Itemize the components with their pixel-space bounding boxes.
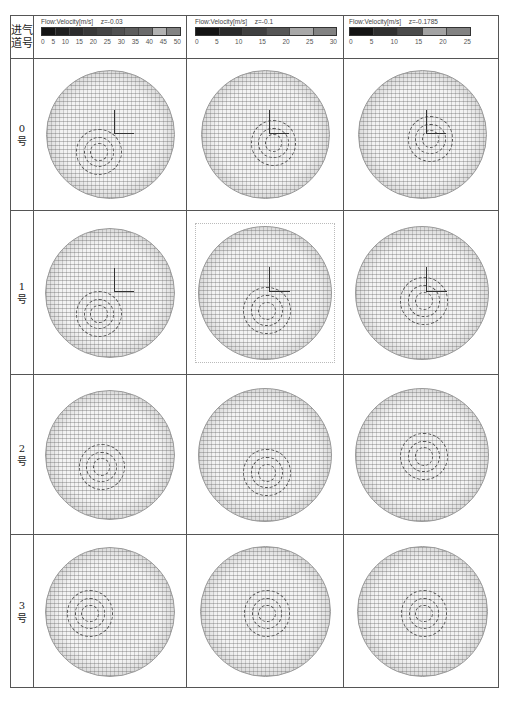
velocity-field-disk	[198, 388, 332, 522]
colorbar-tick: 15	[76, 38, 83, 45]
vortex-ring	[243, 449, 291, 497]
colorbar-tick: 50	[174, 38, 181, 45]
colorbar-segment	[398, 28, 422, 35]
velocity-field-disk	[355, 226, 489, 360]
velocity-field-disk	[45, 228, 175, 358]
colorbar-segment	[56, 28, 70, 35]
colorbar-tick: 0	[195, 38, 199, 45]
colorbar-tick: 0	[41, 38, 45, 45]
colorbar-strip	[349, 27, 471, 36]
row-number: 1	[19, 280, 25, 293]
colorbar-tick: 20	[282, 38, 289, 45]
colorbar-ticks: 05101520253035404550	[41, 38, 181, 45]
colorbar-tick: 15	[415, 38, 422, 45]
plane-label: z=-0.1	[255, 18, 273, 25]
vector-plot-row2-col1	[187, 375, 343, 534]
colorbar-ticks: 051015202530	[195, 38, 337, 45]
vector-plot-row1-col2	[344, 211, 500, 374]
colorbar-tick: 25	[306, 38, 313, 45]
vortex-ring	[400, 277, 448, 325]
vector-plot-row1-col1	[187, 211, 343, 374]
plane-label: z=-0.1785	[409, 18, 438, 25]
corner-header: 进气 道号	[11, 16, 33, 58]
colorbar-tick: 40	[146, 38, 153, 45]
colorbar-segment	[350, 28, 374, 35]
colorbar-tick: 25	[464, 38, 471, 45]
colorbar-tick: 30	[118, 38, 125, 45]
vector-plot-row3-col2	[344, 535, 500, 688]
y-axis-icon	[114, 110, 115, 133]
colorbar-z01: Flow:Velocity[m/s] z=-0.1 051015202530	[195, 18, 337, 56]
colorbar-segment	[196, 28, 220, 35]
x-axis-icon	[269, 291, 290, 292]
figure-table: 进气 道号 Flow:Velocity[m/s] z=-0.03 0510152…	[10, 15, 499, 688]
x-axis-icon	[426, 133, 447, 134]
colorbar-title: Flow:Velocity[m/s]	[349, 18, 401, 25]
velocity-field-disk	[357, 546, 488, 677]
vortex-ring	[76, 129, 122, 175]
colorbar-segment	[374, 28, 398, 35]
colorbar-z003: Flow:Velocity[m/s] z=-0.03 0510152025303…	[41, 18, 181, 56]
row-number: 2	[19, 442, 25, 455]
vortex-ring	[243, 287, 291, 335]
row-number: 0	[19, 122, 25, 135]
colorbar-tick: 30	[330, 38, 337, 45]
row-label-0: 0 号	[11, 59, 33, 210]
colorbar-segment	[267, 28, 291, 35]
row-label-2: 2 号	[11, 375, 33, 534]
vortex-ring	[408, 116, 454, 162]
colorbar-title: Flow:Velocity[m/s]	[41, 18, 93, 25]
colorbar-tick: 20	[439, 38, 446, 45]
corner-label-line1: 进气	[11, 24, 33, 37]
colorbar-tick: 0	[349, 38, 353, 45]
colorbar-tick: 45	[160, 38, 167, 45]
corner-label-line2: 道号	[11, 37, 33, 50]
colorbar-tick: 5	[370, 38, 374, 45]
colorbar-tick: 5	[215, 38, 219, 45]
colorbar-segment	[314, 28, 337, 35]
colorbar-segment	[243, 28, 267, 35]
vector-plot-row0-col0	[34, 59, 186, 210]
colorbar-tick: 15	[259, 38, 266, 45]
x-axis-icon	[426, 291, 447, 292]
row-label-1: 1 号	[11, 211, 33, 374]
row-label-3: 3 号	[11, 535, 33, 688]
colorbar-segment	[290, 28, 314, 35]
vortex-ring	[400, 433, 448, 481]
row-suffix: 号	[17, 293, 27, 306]
velocity-field-disk	[358, 70, 487, 199]
row-suffix: 号	[17, 455, 27, 468]
y-axis-icon	[426, 110, 427, 133]
colorbar-ticks: 0510152025	[349, 38, 471, 45]
vector-plot-row0-col1	[187, 59, 343, 210]
colorbar-segment	[220, 28, 244, 35]
y-axis-icon	[269, 267, 270, 291]
colorbar-segment	[153, 28, 167, 35]
colorbar-strip	[195, 27, 337, 36]
y-axis-icon	[269, 110, 270, 133]
vortex-ring	[401, 590, 448, 637]
velocity-field-disk	[200, 546, 331, 677]
x-axis-icon	[269, 133, 290, 134]
colorbar-segment	[423, 28, 447, 35]
colorbar-segment	[98, 28, 112, 35]
colorbar-segment	[84, 28, 98, 35]
colorbar-tick: 35	[132, 38, 139, 45]
colorbar-tick: 20	[90, 38, 97, 45]
y-axis-icon	[426, 267, 427, 291]
colorbar-tick: 5	[51, 38, 55, 45]
colorbar-title: Flow:Velocity[m/s]	[195, 18, 247, 25]
colorbar-segment	[139, 28, 153, 35]
plane-label: z=-0.03	[101, 18, 123, 25]
vortex-ring	[79, 444, 125, 490]
vector-plot-row3-col1	[187, 535, 343, 688]
x-axis-icon	[114, 291, 135, 292]
velocity-field-disk	[198, 226, 332, 360]
colorbar-tick: 10	[62, 38, 69, 45]
colorbar-segment	[42, 28, 56, 35]
velocity-field-disk	[45, 390, 175, 520]
vortex-ring	[251, 120, 297, 166]
vector-plot-row0-col2	[344, 59, 500, 210]
y-axis-icon	[114, 268, 115, 291]
colorbar-segment	[125, 28, 139, 35]
